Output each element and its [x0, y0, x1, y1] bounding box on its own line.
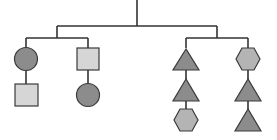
triangle-node: [173, 49, 199, 70]
square-node: [15, 84, 38, 106]
triangle-node: [235, 79, 261, 101]
connector-lines: [26, 0, 248, 109]
hexagon-node: [174, 109, 198, 131]
triangle-node: [173, 79, 199, 101]
circle-node: [15, 48, 38, 71]
triangle-node: [235, 109, 261, 131]
circle-node: [77, 84, 100, 107]
square-node: [77, 48, 99, 70]
shapes: [15, 48, 262, 132]
tree-diagram: [0, 0, 277, 140]
hexagon-node: [236, 48, 260, 70]
